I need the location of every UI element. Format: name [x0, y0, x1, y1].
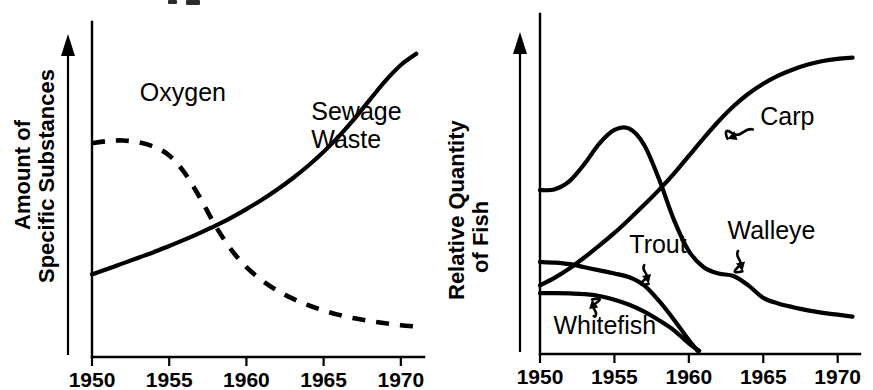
x-ticks-right [540, 354, 838, 363]
series-line-carp [540, 58, 853, 286]
x-ticks-left [92, 357, 401, 366]
x-tick-label-1950: 1950 [517, 365, 564, 388]
x-tick-labels-left: 19501955196019651970 [69, 368, 425, 390]
series-label-walleye: Walleye [728, 216, 816, 244]
x-tick-label-1960: 1960 [223, 368, 270, 390]
x-tick-label-1970: 1970 [377, 368, 424, 390]
x-tick-label-1965: 1965 [740, 365, 787, 388]
x-tick-label-1960: 1960 [665, 365, 712, 388]
y-axis-title-right: Relative Quantity of Fish [444, 120, 493, 300]
chart-panel-left: Amount of Specific Substances 1950195519… [0, 0, 440, 390]
x-tick-label-1955: 1955 [146, 368, 193, 390]
y-axis-title-left: Amount of Specific Substances [10, 69, 59, 283]
y-axis-title-line-1: Amount of [10, 119, 35, 230]
series-label-sewage-waste: Waste [311, 125, 381, 153]
figure-root: Amount of Specific Substances 1950195519… [0, 0, 873, 390]
y-axis-title-line-2: Specific Substances [34, 69, 59, 283]
series-label-sewage-waste: Sewage [311, 97, 401, 125]
series-label-carp: Carp [760, 102, 814, 130]
series-labels-left: OxygenSewageWaste [140, 78, 402, 153]
series-label-trout: Trout [629, 230, 686, 258]
leader-arrowhead-whitefish [589, 299, 598, 309]
y-axis-title-line-2: of Fish [468, 201, 493, 273]
x-tick-label-1970: 1970 [814, 365, 861, 388]
series-label-whitefish: Whitefish [553, 311, 656, 339]
x-tick-labels-right: 19501955196019651970 [517, 365, 861, 388]
chart-panel-right: Relative Quantity of Fish 19501955196019… [440, 0, 873, 390]
series-line-oxygen [92, 140, 416, 326]
y-axis-title-line-1: Relative Quantity [444, 120, 469, 300]
chart-svg-right: Relative Quantity of Fish 19501955196019… [440, 0, 873, 390]
x-tick-label-1950: 1950 [69, 368, 116, 390]
chart-svg-left: Amount of Specific Substances 1950195519… [0, 0, 440, 390]
x-tick-label-1965: 1965 [300, 368, 347, 390]
series-label-oxygen: Oxygen [140, 78, 226, 106]
y-axis-arrow-left [61, 34, 75, 355]
x-tick-label-1955: 1955 [591, 365, 638, 388]
y-axis-arrow-right [513, 32, 527, 352]
